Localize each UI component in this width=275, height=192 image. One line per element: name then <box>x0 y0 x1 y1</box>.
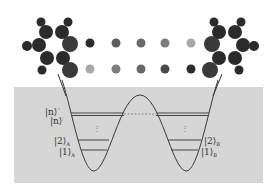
right-molecule <box>202 18 259 79</box>
right-ellipsis: ⋮ <box>181 124 189 133</box>
left-molecule <box>22 18 78 79</box>
potential-panel <box>14 87 263 183</box>
bridge-top-row <box>86 39 196 48</box>
double-well-diagram <box>0 0 275 192</box>
left-ellipsis: ⋮ <box>93 124 101 133</box>
level-label-1B: |1⟩B <box>201 148 217 160</box>
level-label-n: |n⟩' <box>50 115 64 126</box>
level-label-1A: |1⟩A <box>59 148 75 160</box>
bridge-bottom-row <box>86 65 196 74</box>
